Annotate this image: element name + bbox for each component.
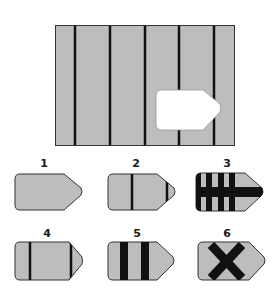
option-1-label: 1	[34, 158, 54, 170]
option-2[interactable]	[107, 173, 177, 211]
option-3-label: 3	[217, 158, 237, 170]
option-6-label: 6	[217, 228, 237, 240]
option-1[interactable]	[14, 173, 84, 211]
option-5[interactable]	[107, 241, 177, 281]
option-4-label: 4	[37, 228, 57, 240]
option-4[interactable]	[14, 241, 84, 281]
option-2-label: 2	[126, 158, 146, 170]
main-puzzle-panel	[55, 25, 235, 146]
option-6[interactable]	[197, 241, 267, 281]
main-panel-graphic	[55, 25, 235, 146]
option-5-label: 5	[127, 228, 147, 240]
option-3[interactable]	[195, 172, 265, 212]
